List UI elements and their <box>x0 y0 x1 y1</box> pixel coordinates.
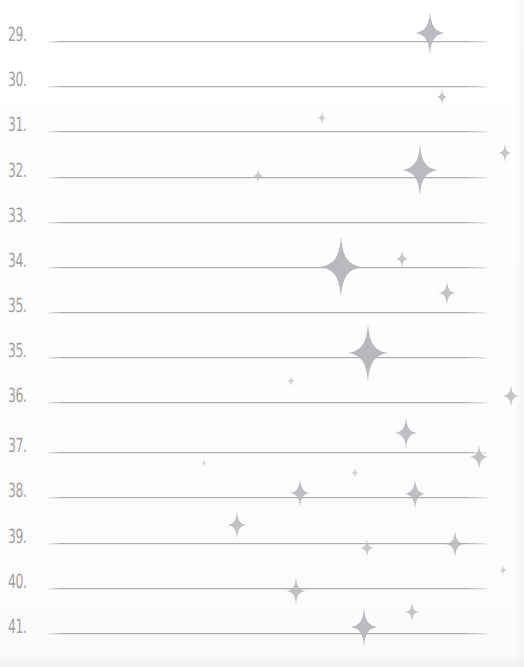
notebook-page: 29.30.31.32.33.34.35.35.36.37.38.39.40.4… <box>0 0 524 667</box>
rule-line <box>48 633 487 634</box>
rule-line <box>48 497 487 498</box>
sparkle-icon <box>402 144 438 196</box>
sparkle-icon <box>287 577 306 605</box>
sparkle-icon <box>228 511 247 539</box>
sparkle-icon <box>415 11 445 55</box>
rule-line <box>48 177 487 178</box>
sparkle-icon <box>395 417 417 449</box>
rule-line <box>48 543 487 544</box>
sparkle-icon <box>437 89 448 105</box>
page-edge-bottom-shading <box>0 653 524 667</box>
paper-texture <box>0 0 524 667</box>
rule-line <box>48 312 487 313</box>
sparkle-icon <box>361 539 374 558</box>
rule-number: 35. <box>8 339 26 362</box>
rule-number: 30. <box>8 68 26 91</box>
sparkle-icon <box>503 384 519 407</box>
page-edge-right-shading <box>514 0 524 667</box>
sparkle-icon <box>439 281 456 306</box>
rule-line <box>48 402 487 403</box>
sparkle-icon <box>499 564 507 576</box>
sparkle-icon <box>318 111 327 124</box>
rule-line <box>48 222 487 223</box>
rule-line <box>48 452 487 453</box>
sparkle-icon <box>348 324 388 382</box>
sparkle-icon <box>499 144 512 163</box>
rule-number: 32. <box>8 159 26 182</box>
sparkle-icon <box>351 607 378 646</box>
rule-line <box>48 41 487 42</box>
rule-number: 38. <box>8 479 26 502</box>
rule-number: 35. <box>8 294 26 317</box>
rule-number: 40. <box>8 570 26 593</box>
rule-number: 29. <box>8 23 26 46</box>
rule-number: 33. <box>8 204 26 227</box>
rule-number: 36. <box>8 384 26 407</box>
rule-line <box>48 357 487 358</box>
sparkle-icon <box>470 444 488 470</box>
sparkle-icon <box>396 250 409 269</box>
rule-line <box>48 86 487 87</box>
sparkle-icon <box>287 375 295 387</box>
rule-line <box>48 131 487 132</box>
sparkle-icon <box>290 479 310 508</box>
rule-number: 37. <box>8 434 26 457</box>
rule-number: 39. <box>8 525 26 548</box>
rule-number: 34. <box>8 249 26 272</box>
rule-line <box>48 588 487 589</box>
rule-line <box>48 267 487 268</box>
rule-number: 41. <box>8 615 26 638</box>
sparkle-icon <box>405 602 419 622</box>
rule-number: 31. <box>8 113 26 136</box>
sparkle-icon <box>201 459 207 468</box>
sparkle-icon <box>351 467 359 479</box>
sparkle-icon <box>405 479 426 509</box>
sparkle-icon <box>253 168 264 184</box>
